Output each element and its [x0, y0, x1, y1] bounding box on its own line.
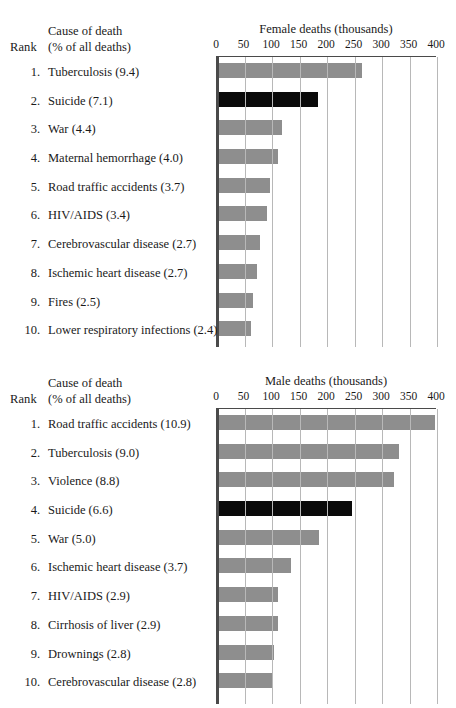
- table-row: 5.War (5.0): [0, 525, 456, 554]
- table-row: 6.HIV/AIDS (3.4): [0, 201, 456, 230]
- female-row-labels: 1.Tuberculosis (9.4)2.Suicide (7.1)3.War…: [0, 58, 456, 345]
- row-rank: 7.: [10, 237, 40, 252]
- x-tick-200: 200: [317, 390, 334, 402]
- row-cause-label: War (4.4): [48, 122, 96, 137]
- x-tick-250: 250: [345, 38, 362, 50]
- row-rank: 9.: [10, 295, 40, 310]
- cause-column-header-line2: (% of all deaths): [48, 392, 131, 407]
- row-rank: 10.: [10, 323, 40, 338]
- x-tick-350: 350: [400, 38, 417, 50]
- row-rank: 8.: [10, 618, 40, 633]
- table-row: 10.Lower respiratory infections (2.4): [0, 316, 456, 345]
- row-rank: 9.: [10, 647, 40, 662]
- row-rank: 3.: [10, 474, 40, 489]
- row-cause-label: Maternal hemorrhage (4.0): [48, 151, 183, 166]
- table-row: 7.Cerebrovascular disease (2.7): [0, 230, 456, 259]
- male-chart-title: Male deaths (thousands): [216, 374, 436, 389]
- table-row: 5.Road traffic accidents (3.7): [0, 173, 456, 202]
- table-row: 7.HIV/AIDS (2.9): [0, 582, 456, 611]
- table-row: 2.Suicide (7.1): [0, 87, 456, 116]
- table-row: 4.Suicide (6.6): [0, 496, 456, 525]
- row-cause-label: Ischemic heart disease (2.7): [48, 266, 188, 281]
- x-tick-300: 300: [372, 390, 389, 402]
- rank-column-header: Rank: [10, 392, 37, 407]
- row-cause-label: Cerebrovascular disease (2.7): [48, 237, 196, 252]
- row-rank: 5.: [10, 532, 40, 547]
- male-x-axis-ticks: 050100150200250300350400: [216, 390, 436, 406]
- x-tick-400: 400: [427, 390, 444, 402]
- row-cause-label: Suicide (6.6): [48, 503, 113, 518]
- row-cause-label: Lower respiratory infections (2.4): [48, 323, 217, 338]
- row-cause-label: Road traffic accidents (10.9): [48, 417, 191, 432]
- row-rank: 8.: [10, 266, 40, 281]
- male-chart-panel: Rank Cause of death (% of all deaths) Ma…: [0, 352, 456, 708]
- x-tick-50: 50: [238, 38, 250, 50]
- x-tick-0: 0: [213, 390, 219, 402]
- row-cause-label: Tuberculosis (9.0): [48, 446, 139, 461]
- cause-column-header-line1: Cause of death: [48, 24, 122, 39]
- female-chart-title: Female deaths (thousands): [216, 22, 436, 37]
- x-tick-100: 100: [262, 390, 279, 402]
- table-row: 2.Tuberculosis (9.0): [0, 439, 456, 468]
- row-rank: 7.: [10, 589, 40, 604]
- row-rank: 5.: [10, 180, 40, 195]
- x-tick-300: 300: [372, 38, 389, 50]
- female-chart-panel: Rank Cause of death (% of all deaths) Fe…: [0, 0, 456, 352]
- row-rank: 2.: [10, 94, 40, 109]
- rank-column-header: Rank: [10, 40, 37, 55]
- x-tick-350: 350: [400, 390, 417, 402]
- x-tick-150: 150: [290, 390, 307, 402]
- row-cause-label: Suicide (7.1): [48, 94, 113, 109]
- row-cause-label: Cirrhosis of liver (2.9): [48, 618, 160, 633]
- x-tick-250: 250: [345, 390, 362, 402]
- cause-column-header-line2: (% of all deaths): [48, 40, 131, 55]
- table-row: 4.Maternal hemorrhage (4.0): [0, 144, 456, 173]
- row-cause-label: Tuberculosis (9.4): [48, 65, 139, 80]
- table-row: 1.Tuberculosis (9.4): [0, 58, 456, 87]
- x-tick-50: 50: [238, 390, 250, 402]
- x-tick-0: 0: [213, 38, 219, 50]
- row-rank: 1.: [10, 65, 40, 80]
- table-row: 8.Cirrhosis of liver (2.9): [0, 611, 456, 640]
- row-rank: 4.: [10, 503, 40, 518]
- table-row: 3.War (4.4): [0, 115, 456, 144]
- table-row: 1.Road traffic accidents (10.9): [0, 410, 456, 439]
- cause-column-header-line1: Cause of death: [48, 376, 122, 391]
- x-tick-400: 400: [427, 38, 444, 50]
- row-rank: 6.: [10, 560, 40, 575]
- x-tick-100: 100: [262, 38, 279, 50]
- row-cause-label: HIV/AIDS (2.9): [48, 589, 130, 604]
- row-rank: 3.: [10, 122, 40, 137]
- female-x-axis-ticks: 050100150200250300350400: [216, 38, 436, 54]
- male-table-header: Rank Cause of death (% of all deaths): [0, 374, 210, 410]
- row-cause-label: Ischemic heart disease (3.7): [48, 560, 188, 575]
- row-cause-label: HIV/AIDS (3.4): [48, 208, 130, 223]
- row-cause-label: Fires (2.5): [48, 295, 100, 310]
- row-cause-label: Drownings (2.8): [48, 647, 131, 662]
- table-row: 9.Drownings (2.8): [0, 640, 456, 669]
- row-cause-label: Road traffic accidents (3.7): [48, 180, 185, 195]
- row-rank: 2.: [10, 446, 40, 461]
- row-rank: 10.: [10, 675, 40, 690]
- female-table-header: Rank Cause of death (% of all deaths): [0, 22, 210, 58]
- x-tick-200: 200: [317, 38, 334, 50]
- male-row-labels: 1.Road traffic accidents (10.9)2.Tubercu…: [0, 410, 456, 697]
- row-cause-label: Cerebrovascular disease (2.8): [48, 675, 196, 690]
- table-row: 10.Cerebrovascular disease (2.8): [0, 668, 456, 697]
- x-tick-150: 150: [290, 38, 307, 50]
- row-rank: 1.: [10, 417, 40, 432]
- row-rank: 6.: [10, 208, 40, 223]
- row-rank: 4.: [10, 151, 40, 166]
- row-cause-label: Violence (8.8): [48, 474, 119, 489]
- table-row: 8.Ischemic heart disease (2.7): [0, 259, 456, 288]
- table-row: 3.Violence (8.8): [0, 467, 456, 496]
- table-row: 6.Ischemic heart disease (3.7): [0, 553, 456, 582]
- table-row: 9.Fires (2.5): [0, 288, 456, 317]
- row-cause-label: War (5.0): [48, 532, 96, 547]
